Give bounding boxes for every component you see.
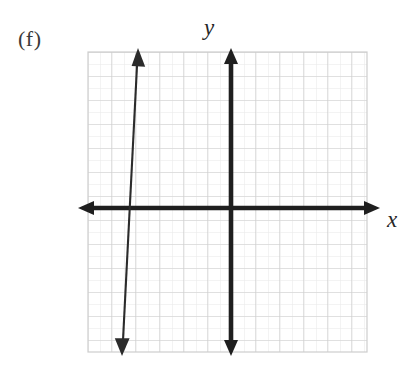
x-axis-label: x — [387, 208, 397, 231]
part-label: (f) — [18, 28, 41, 50]
x-axis-right-arrowhead — [364, 201, 380, 215]
coordinate-plane — [0, 0, 419, 371]
y-axis-label: y — [204, 16, 214, 39]
x-axis-left-arrowhead — [78, 201, 94, 215]
graph-figure: (f) y x — [0, 0, 419, 371]
